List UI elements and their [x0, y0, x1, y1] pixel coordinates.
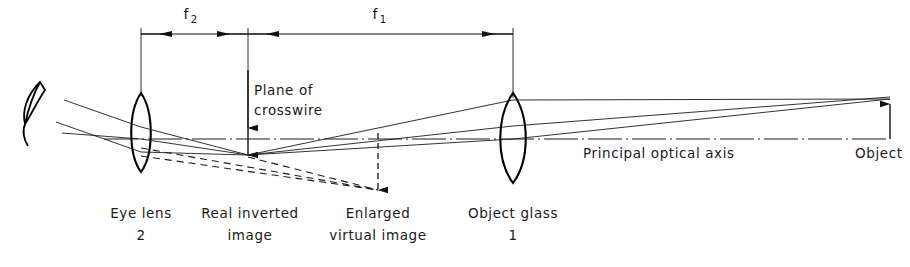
dimension-f1-label: f	[373, 6, 379, 22]
dimension-f1-subscript: 1	[380, 14, 386, 25]
enlarged-virtual-image-label-line1: Enlarged	[346, 205, 411, 221]
enlarged-virtual-image-label-line2: virtual image	[329, 227, 426, 243]
real-inverted-image-label-line2: image	[227, 227, 272, 243]
eye-lens-label-line2: 2	[136, 227, 145, 243]
eye-icon	[24, 82, 45, 146]
optical-ray-diagram: f 2 f 1	[0, 0, 910, 267]
dimension-f1: f 1	[248, 6, 513, 34]
object-glass-label-line2: 1	[508, 227, 517, 243]
dimension-f2: f 2	[141, 6, 248, 34]
diagram-canvas: f 2 f 1	[0, 0, 910, 267]
real-inverted-image-label-line1: Real inverted	[201, 205, 299, 221]
dimension-f2-subscript: 2	[191, 14, 197, 25]
object-label: Object	[855, 145, 903, 161]
object-glass-label-line1: Object glass	[468, 205, 558, 221]
plane-of-crosswire-label-line2: crosswire	[254, 102, 323, 118]
dimension-block: f 2 f 1	[141, 6, 513, 128]
ray-bundle-to-eye	[56, 100, 141, 152]
plane-of-crosswire-label-line1: Plane of	[254, 82, 314, 98]
ray-bundle-object-to-objectglass	[513, 97, 890, 139]
dimension-f2-label: f	[184, 6, 190, 22]
principal-optical-axis-label: Principal optical axis	[583, 145, 735, 161]
eye-lens-label-line1: Eye lens	[110, 205, 172, 221]
eye-lens-element	[131, 93, 151, 172]
